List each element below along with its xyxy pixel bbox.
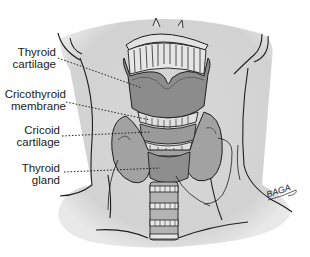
- label-thyroid-gland: Thyroid gland: [22, 162, 60, 186]
- label-cricothyroid-membrane: Cricothyroid membrane: [5, 88, 66, 112]
- label-cricothyroid-membrane-line2: membrane: [5, 100, 66, 112]
- trachea-shape: [150, 182, 178, 240]
- label-cricoid-cartilage-line1: Cricoid: [17, 124, 60, 136]
- label-thyroid-cartilage-line1: Thyroid: [13, 46, 56, 58]
- label-thyroid-cartilage-line2: cartilage: [13, 58, 56, 70]
- label-thyroid-gland-line1: Thyroid: [22, 162, 60, 174]
- label-cricoid-cartilage-line2: cartilage: [17, 136, 60, 148]
- label-cricoid-cartilage: Cricoid cartilage: [17, 124, 60, 148]
- label-thyroid-cartilage: Thyroid cartilage: [13, 46, 56, 70]
- label-cricothyroid-membrane-line1: Cricothyroid: [5, 88, 66, 100]
- anatomy-diagram: BAGA Thyroid cartilage Cricothyroid memb…: [0, 0, 310, 257]
- label-thyroid-gland-line2: gland: [22, 174, 60, 186]
